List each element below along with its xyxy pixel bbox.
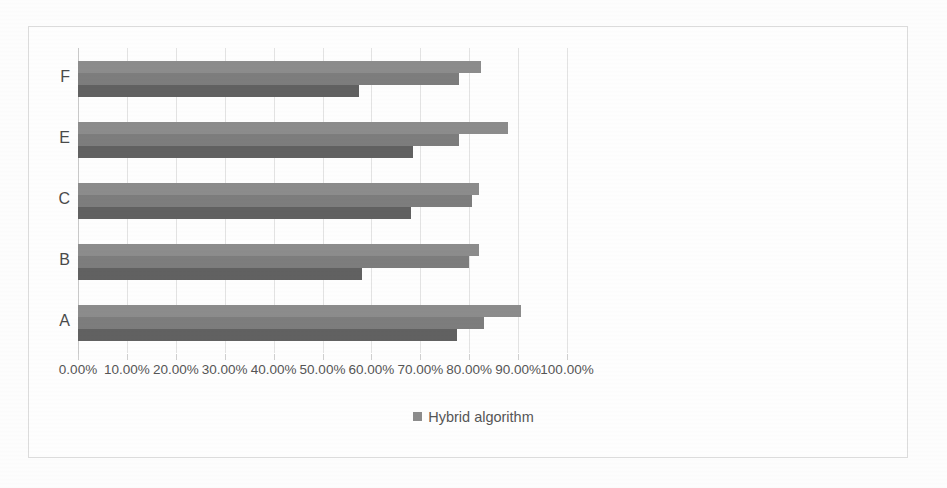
axis-tick bbox=[567, 354, 568, 360]
axis-tick bbox=[420, 354, 421, 360]
axis-tick-label: 40.00% bbox=[251, 362, 297, 377]
category-label-b: B bbox=[30, 251, 70, 269]
bar bbox=[78, 317, 484, 329]
axis-tick bbox=[274, 354, 275, 360]
category-label-a: A bbox=[30, 312, 70, 330]
chart-container: FECBA 0.00%10.00%20.00%30.00%40.00%50.00… bbox=[0, 0, 947, 488]
bar bbox=[78, 146, 413, 158]
axis-tick-label: 10.00% bbox=[104, 362, 150, 377]
bar bbox=[78, 195, 472, 207]
bar bbox=[78, 61, 481, 73]
bar bbox=[78, 244, 479, 256]
axis-tick bbox=[176, 354, 177, 360]
axis-tick bbox=[78, 354, 79, 360]
bar bbox=[78, 268, 362, 280]
legend-swatch-hybrid-algorithm bbox=[413, 412, 422, 421]
axis-tick-label: 0.00% bbox=[59, 362, 97, 377]
axis-tick bbox=[518, 354, 519, 360]
bar bbox=[78, 134, 459, 146]
bar bbox=[78, 329, 457, 341]
chart-legend: Hybrid algorithm bbox=[0, 408, 947, 425]
bar bbox=[78, 73, 459, 85]
axis-tick-label: 50.00% bbox=[300, 362, 346, 377]
axis-tick-label: 100.00% bbox=[540, 362, 593, 377]
legend-label-hybrid-algorithm: Hybrid algorithm bbox=[428, 409, 534, 425]
bar bbox=[78, 305, 521, 317]
bar bbox=[78, 183, 479, 195]
axis-tick-label: 20.00% bbox=[153, 362, 199, 377]
axis-tick-label: 90.00% bbox=[495, 362, 541, 377]
axis-tick-label: 70.00% bbox=[397, 362, 443, 377]
category-label-e: E bbox=[30, 129, 70, 147]
axis-tick bbox=[469, 354, 470, 360]
axis-tick-label: 30.00% bbox=[202, 362, 248, 377]
bar bbox=[78, 122, 508, 134]
bar bbox=[78, 85, 359, 97]
bar bbox=[78, 256, 469, 268]
bar bbox=[78, 207, 411, 219]
axis-tick-label: 80.00% bbox=[446, 362, 492, 377]
axis-tick bbox=[371, 354, 372, 360]
category-label-f: F bbox=[30, 68, 70, 86]
gridline bbox=[567, 48, 568, 353]
category-label-c: C bbox=[30, 190, 70, 208]
axis-tick-label: 60.00% bbox=[348, 362, 394, 377]
axis-tick bbox=[225, 354, 226, 360]
axis-tick bbox=[127, 354, 128, 360]
axis-tick bbox=[323, 354, 324, 360]
